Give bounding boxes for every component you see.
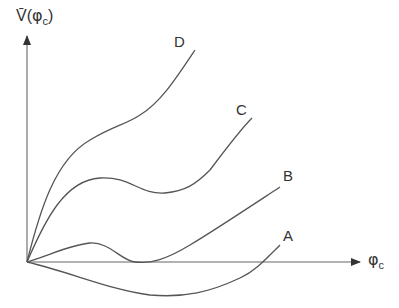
- potential-diagram: [0, 0, 399, 308]
- curve-label-a: A: [283, 228, 293, 243]
- curve-label-c: C: [236, 102, 247, 117]
- y-axis-label-close: ): [48, 7, 53, 24]
- curve-d: [27, 50, 195, 262]
- curve-c: [27, 118, 252, 262]
- y-axis-label-sub: c: [43, 15, 49, 27]
- y-axis-label-v: V̄(: [16, 7, 32, 24]
- x-axis-label-phi: φ: [368, 250, 379, 269]
- x-axis-label: φc: [368, 252, 384, 268]
- curve-a: [27, 245, 280, 296]
- curve-b: [27, 187, 280, 262]
- y-axis-label-phi: φ: [32, 6, 43, 25]
- x-axis-label-sub: c: [379, 259, 385, 271]
- y-axis-label: V̄(φc): [16, 8, 53, 24]
- curve-label-d: D: [174, 34, 185, 49]
- curve-label-b: B: [283, 168, 293, 183]
